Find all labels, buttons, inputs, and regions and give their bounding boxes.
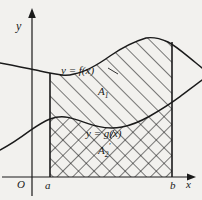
region-a1-subscript: 1 (105, 91, 109, 100)
region-a2-label: A2′ (98, 142, 110, 158)
y-axis (28, 8, 36, 196)
y-axis-label: y (16, 20, 21, 32)
region-a1-letter: A (98, 85, 105, 97)
curve-f-label: y = f(x) (61, 65, 94, 76)
y-axis-arrowhead (28, 8, 36, 18)
upper-bound-label-b: b (170, 180, 176, 191)
figure-canvas: y O a b x y = f(x) y = g(x) A1 A2′ (0, 0, 202, 200)
region-a2-letter: A (98, 144, 105, 156)
curve-g-label: y = g(x) (86, 128, 122, 139)
origin-label: O (17, 179, 25, 190)
x-axis-label: x (186, 179, 191, 190)
area-between-curves-diagram (0, 0, 202, 200)
region-a1-label: A1 (98, 86, 108, 100)
region-a2-prime: ′ (108, 141, 110, 151)
region-a2-subscript: 2 (105, 150, 109, 159)
lower-bound-label-a: a (45, 180, 51, 191)
